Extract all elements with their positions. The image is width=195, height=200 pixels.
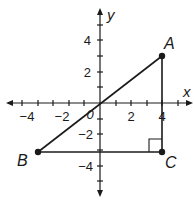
point-A-label: A	[163, 35, 175, 52]
x-axis-right-arrow-icon	[186, 100, 193, 106]
point-B-label: B	[17, 152, 28, 169]
point-B	[35, 149, 41, 155]
point-A	[159, 53, 165, 59]
x-tick-label-minus-4: −4	[20, 109, 35, 124]
y-tick-label-2: 2	[84, 65, 91, 80]
x-axis-left-arrow-icon	[6, 100, 13, 106]
x-tick-label-minus-2: −2	[55, 109, 70, 124]
y-axis-up-arrow-icon	[97, 8, 103, 15]
y-tick-label-minus-4: −4	[78, 159, 93, 174]
y-axis-label: y	[106, 6, 116, 23]
y-axis-down-arrow-icon	[97, 190, 103, 197]
y-tick-label-minus-2: −2	[78, 127, 93, 142]
coordinate-plane-diagram: y x −4 −2 0 2 4 4 2 −2 −4 A B C	[0, 0, 195, 200]
x-axis-label: x	[182, 83, 191, 100]
y-tick-label-4: 4	[84, 33, 91, 48]
point-C-label: C	[165, 154, 177, 171]
diagram-canvas: y x −4 −2 0 2 4 4 2 −2 −4 A B C	[0, 0, 195, 200]
x-tick-label-2: 2	[127, 109, 134, 124]
